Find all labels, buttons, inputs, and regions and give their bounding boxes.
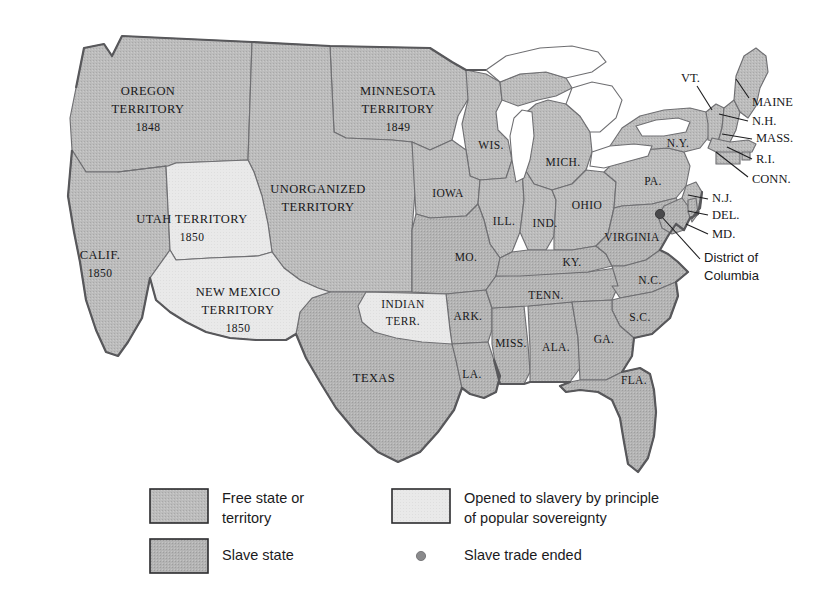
- callout-new-hampshire: N.H.: [752, 114, 776, 128]
- legend-label-free-state-line1: Free state or: [222, 490, 304, 506]
- label-utah-territory-line1: UTAH TERRITORY: [136, 212, 247, 226]
- map-figure: OREGON TERRITORY 1848 UTAH TERRITORY 185…: [0, 0, 833, 611]
- callout-district-of-columbia-line2: Columbia: [704, 268, 760, 283]
- legend-swatch-slave-state: [150, 539, 208, 573]
- label-missouri: MO.: [455, 251, 478, 263]
- label-new-mexico-territory-year: 1850: [226, 322, 251, 334]
- region-minnesota-territory: [330, 46, 470, 150]
- legend-label-slave-state: Slave state: [222, 547, 294, 563]
- label-utah-territory-year: 1850: [180, 231, 205, 243]
- label-minnesota-territory-line2: TERRITORY: [362, 102, 435, 116]
- label-wisconsin: WIS.: [478, 139, 504, 151]
- region-connecticut: [716, 152, 740, 164]
- label-oregon-territory-line2: TERRITORY: [112, 102, 185, 116]
- label-unorganized-territory-line2: TERRITORY: [282, 200, 355, 214]
- callout-new-jersey: N.J.: [712, 191, 732, 205]
- label-louisiana: LA.: [462, 368, 481, 380]
- label-virginia: VIRGINIA: [604, 231, 660, 243]
- label-south-carolina: S.C.: [629, 311, 650, 323]
- label-illinois: ILL.: [493, 215, 515, 227]
- label-new-mexico-territory-line2: TERRITORY: [202, 303, 275, 317]
- label-ohio: OHIO: [572, 199, 602, 211]
- slave-trade-ended-marker-dc: [655, 209, 664, 218]
- callout-delaware: DEL.: [712, 208, 739, 222]
- legend-label-popular-sovereignty-line2: of popular sovereignty: [464, 510, 607, 526]
- label-indiana: IND.: [533, 217, 558, 229]
- label-north-carolina: N.C.: [638, 274, 661, 286]
- label-tennessee: TENN.: [528, 289, 564, 301]
- callout-massachusetts: MASS.: [756, 131, 793, 145]
- label-georgia: GA.: [594, 333, 615, 345]
- label-mississippi: MISS.: [495, 337, 527, 349]
- legend-swatch-free-state: [150, 489, 208, 523]
- label-oregon-territory-year: 1848: [136, 121, 161, 133]
- legend-swatch-slave-trade-ended: [416, 551, 425, 560]
- callout-rhode-island: R.I.: [756, 152, 775, 166]
- label-new-mexico-territory-line1: NEW MEXICO: [196, 285, 281, 299]
- callout-district-of-columbia-line1: District of: [704, 250, 759, 265]
- label-texas: TEXAS: [353, 371, 395, 385]
- label-california-year: 1850: [88, 267, 113, 279]
- label-indian-territory-line2: TERR.: [386, 315, 420, 327]
- callout-connecticut: CONN.: [752, 172, 791, 186]
- label-iowa: IOWA: [432, 187, 464, 199]
- label-minnesota-territory-line1: MINNESOTA: [360, 84, 436, 98]
- label-oregon-territory-line1: OREGON: [121, 84, 175, 98]
- legend-label-slave-trade-ended: Slave trade ended: [464, 547, 582, 563]
- callout-maine: MAINE: [752, 95, 793, 109]
- label-pennsylvania: PA.: [644, 175, 662, 187]
- label-minnesota-territory-year: 1849: [386, 121, 411, 133]
- label-kentucky: KY.: [562, 256, 581, 268]
- label-michigan: MICH.: [546, 156, 581, 168]
- label-alabama: ALA.: [542, 341, 570, 353]
- label-unorganized-territory-line1: UNORGANIZED: [270, 182, 365, 196]
- callout-vermont: VT.: [681, 71, 700, 85]
- label-indian-territory-line1: INDIAN: [381, 298, 425, 310]
- label-florida: FLA.: [621, 374, 647, 386]
- legend-label-popular-sovereignty-line1: Opened to slavery by principle: [464, 490, 659, 506]
- label-arkansas: ARK.: [454, 310, 483, 322]
- legend-label-free-state-line2: territory: [222, 510, 272, 526]
- legend-swatch-popular-sovereignty: [392, 489, 450, 523]
- callout-maryland: MD.: [712, 227, 735, 241]
- label-california-line1: CALIF.: [80, 248, 121, 262]
- label-new-york: N.Y.: [667, 137, 689, 149]
